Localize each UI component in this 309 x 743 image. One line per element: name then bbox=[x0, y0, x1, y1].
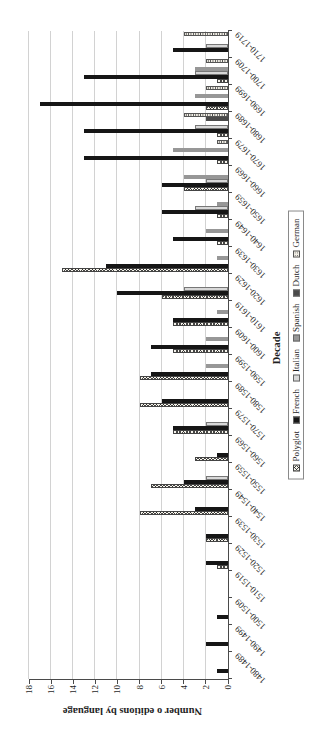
gridline bbox=[72, 31, 73, 679]
bar-german-1710-1719 bbox=[184, 33, 228, 37]
bar-polyglot-1630-1639 bbox=[62, 269, 228, 273]
bar-polyglot-1700-1709 bbox=[217, 80, 228, 84]
bar-italian-1550-1559 bbox=[206, 477, 228, 481]
bar-french-1560-1569 bbox=[217, 454, 228, 458]
legend-swatch-italian bbox=[293, 375, 300, 382]
y-axis-tick-label: 6 bbox=[157, 685, 167, 707]
y-axis-tick-label: 18 bbox=[24, 685, 34, 707]
legend-label-dutch: Dutch bbox=[291, 264, 301, 286]
x-axis-tick bbox=[228, 246, 232, 247]
legend-swatch-french bbox=[293, 417, 300, 424]
x-axis-tick bbox=[228, 138, 232, 139]
legend-label-german: German bbox=[291, 218, 301, 247]
legend: PolyglotFrenchItalianSpanishDutchGerman bbox=[288, 210, 304, 479]
bar-german-1680-1689 bbox=[184, 114, 228, 118]
x-axis-tick bbox=[228, 111, 232, 112]
bar-polyglot-1550-1559 bbox=[151, 485, 228, 489]
x-axis-tick bbox=[228, 57, 232, 58]
bar-italian-1620-1629 bbox=[184, 288, 228, 292]
y-axis-tick bbox=[161, 680, 162, 684]
x-axis-tick bbox=[228, 192, 232, 193]
bar-spanish-1640-1649 bbox=[206, 230, 228, 234]
bar-polyglot-1610-1619 bbox=[173, 323, 228, 327]
bar-french-1480-1489 bbox=[217, 670, 228, 674]
bar-polyglot-1530-1539 bbox=[206, 539, 228, 543]
x-axis-tick bbox=[228, 570, 232, 571]
bar-french-1640-1649 bbox=[173, 238, 228, 242]
x-axis-tick bbox=[228, 651, 232, 652]
bar-french-1710-1719 bbox=[173, 49, 228, 53]
x-axis-tick bbox=[228, 354, 232, 355]
x-axis-tick bbox=[228, 678, 232, 679]
bar-german-1700-1709 bbox=[206, 60, 228, 64]
x-axis-tick bbox=[228, 516, 232, 517]
bar-french-1610-1619 bbox=[173, 319, 228, 323]
chart-screenshot: Number o editions by language 0246810121… bbox=[0, 0, 309, 743]
bar-italian-1650-1659 bbox=[195, 207, 228, 211]
bar-spanish-1600-1609 bbox=[206, 338, 228, 342]
y-axis-tick bbox=[117, 680, 118, 684]
bar-chart: Number o editions by language 0246810121… bbox=[0, 0, 309, 743]
x-axis-tick bbox=[228, 489, 232, 490]
legend-item-german: German bbox=[291, 218, 301, 257]
gridline bbox=[28, 31, 29, 679]
bar-french-1490-1499 bbox=[206, 643, 228, 647]
y-axis-title: Number o editions by language bbox=[63, 706, 202, 717]
y-axis-tick bbox=[139, 680, 140, 684]
legend-item-french: French bbox=[291, 389, 301, 424]
bar-french-1540-1549 bbox=[195, 508, 228, 512]
x-axis-tick bbox=[228, 327, 232, 328]
y-axis-tick-label: 8 bbox=[135, 685, 145, 707]
y-axis-tick-label: 12 bbox=[90, 685, 100, 707]
bar-polyglot-1580-1589 bbox=[140, 404, 228, 408]
plot-area bbox=[29, 31, 229, 680]
bar-french-1520-1529 bbox=[206, 562, 228, 566]
bar-french-1630-1639 bbox=[106, 265, 228, 269]
bar-polyglot-1600-1609 bbox=[173, 350, 228, 354]
y-axis-tick bbox=[95, 680, 96, 684]
bar-polyglot-1650-1659 bbox=[217, 215, 228, 219]
x-axis-tick bbox=[228, 381, 232, 382]
bar-spanish-1700-1709 bbox=[195, 68, 228, 72]
legend-label-polyglot: Polyglot bbox=[291, 431, 301, 462]
bar-french-1590-1599 bbox=[151, 373, 228, 377]
legend-swatch-spanish bbox=[293, 335, 300, 342]
bar-french-1600-1609 bbox=[151, 346, 228, 350]
bar-french-1650-1659 bbox=[162, 211, 228, 215]
y-axis-tick bbox=[29, 680, 30, 684]
bar-french-1620-1629 bbox=[117, 292, 228, 296]
bar-french-1570-1579 bbox=[173, 427, 228, 431]
y-axis-tick-label: 4 bbox=[179, 685, 189, 707]
y-axis-tick bbox=[73, 680, 74, 684]
bar-polyglot-1570-1579 bbox=[173, 431, 228, 435]
bar-french-1680-1689 bbox=[84, 130, 228, 134]
bar-spanish-1690-1699 bbox=[195, 95, 228, 99]
y-axis-tick bbox=[205, 680, 206, 684]
bar-dutch-1680-1689 bbox=[206, 118, 228, 122]
bar-french-1550-1559 bbox=[184, 481, 228, 485]
bar-german-1690-1699 bbox=[206, 87, 228, 91]
bar-french-1500-1509 bbox=[217, 616, 228, 620]
bar-french-1670-1679 bbox=[84, 157, 228, 161]
bar-polyglot-1540-1549 bbox=[140, 512, 228, 516]
x-axis-tick bbox=[228, 219, 232, 220]
legend-item-italian: Italian bbox=[291, 349, 301, 382]
y-axis-tick-label: 0 bbox=[223, 685, 233, 707]
bar-spanish-1590-1599 bbox=[206, 365, 228, 369]
bar-polyglot-1520-1529 bbox=[217, 566, 228, 570]
x-axis-tick bbox=[228, 543, 232, 544]
bar-polyglot-1660-1669 bbox=[184, 188, 228, 192]
legend-swatch-dutch bbox=[293, 289, 300, 296]
bar-italian-1570-1579 bbox=[206, 423, 228, 427]
bar-polyglot-1680-1689 bbox=[217, 134, 228, 138]
legend-swatch-german bbox=[293, 250, 300, 257]
y-axis-tick-label: 16 bbox=[46, 685, 56, 707]
legend-item-polyglot: Polyglot bbox=[291, 431, 301, 472]
bar-polyglot-1690-1699 bbox=[206, 107, 228, 111]
legend-label-french: French bbox=[291, 389, 301, 414]
gridline bbox=[161, 31, 162, 679]
bar-italian-1680-1689 bbox=[195, 126, 228, 130]
bar-spanish-1630-1639 bbox=[217, 257, 228, 261]
gridline bbox=[139, 31, 140, 679]
x-axis-tick bbox=[228, 597, 232, 598]
